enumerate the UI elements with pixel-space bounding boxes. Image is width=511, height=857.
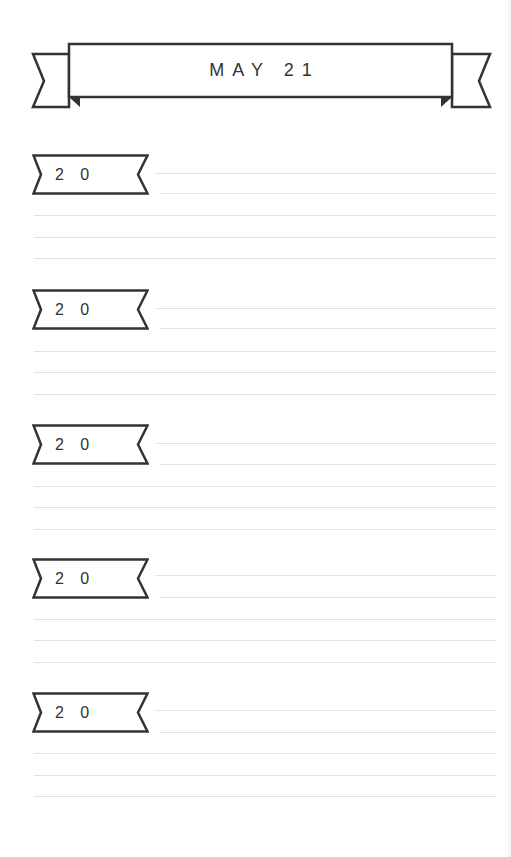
writing-line[interactable] [155,710,496,711]
writing-line[interactable] [160,193,496,194]
writing-line[interactable] [160,732,496,733]
year-label: 2 0 [55,289,95,330]
year-label: 2 0 [55,424,95,465]
writing-line[interactable] [34,619,496,620]
writing-line[interactable] [34,486,496,487]
year-label: 2 0 [55,558,95,599]
year-tag: 2 0 [32,154,149,195]
writing-line[interactable] [34,351,496,352]
year-tag: 2 0 [32,558,149,599]
writing-line[interactable] [34,394,496,395]
journal-entry: 2 0 [0,154,511,284]
journal-entry: 2 0 [0,692,511,822]
writing-line[interactable] [34,507,496,508]
writing-line[interactable] [160,328,496,329]
year-label: 2 0 [55,692,95,733]
journal-entry: 2 0 [0,289,511,419]
writing-line[interactable] [160,597,496,598]
year-tag: 2 0 [32,289,149,330]
header-banner: MAY 21 [0,0,511,120]
writing-line[interactable] [34,753,496,754]
year-tag: 2 0 [32,692,149,733]
writing-line[interactable] [155,443,496,444]
writing-line[interactable] [155,308,496,309]
writing-line[interactable] [155,173,496,174]
year-label: 2 0 [55,154,95,195]
writing-line[interactable] [34,237,496,238]
writing-line[interactable] [34,775,496,776]
writing-line[interactable] [34,529,496,530]
journal-entry: 2 0 [0,558,511,688]
journal-entry: 2 0 [0,424,511,554]
writing-line[interactable] [34,640,496,641]
year-tag: 2 0 [32,424,149,465]
page-title: MAY 21 [69,44,452,97]
writing-line[interactable] [155,575,496,576]
writing-line[interactable] [34,258,496,259]
writing-line[interactable] [160,464,496,465]
writing-line[interactable] [34,215,496,216]
writing-line[interactable] [34,372,496,373]
writing-line[interactable] [34,796,496,797]
writing-line[interactable] [34,662,496,663]
